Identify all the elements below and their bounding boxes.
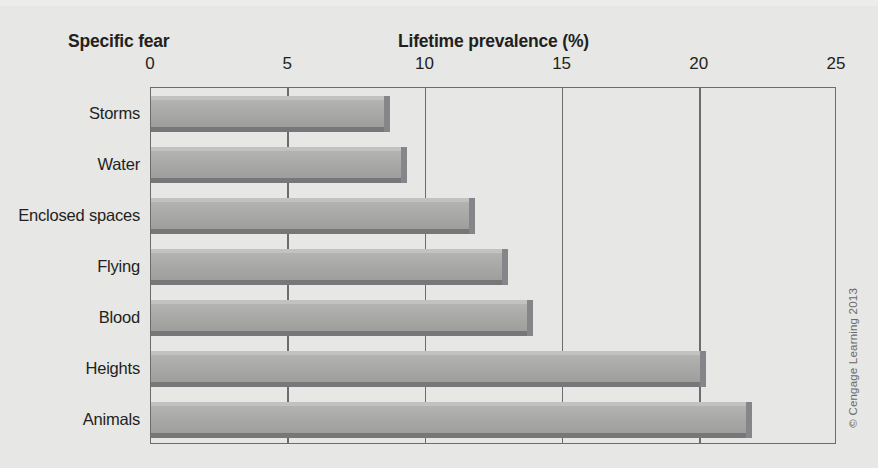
bar-top-face [151,96,384,100]
bar-end-cap [502,249,508,285]
bar-bottom-shadow [151,229,469,234]
category-labels: StormsWaterEnclosed spacesFlyingBloodHei… [0,0,140,468]
bar-storms [151,100,384,127]
x-tick-label-5: 5 [282,54,291,74]
bar-top-face [151,147,401,151]
x-tick-label-10: 10 [415,54,434,74]
bar-bottom-shadow [151,382,700,387]
bar-end-cap [401,147,407,183]
plot-area [150,87,836,444]
bar-bottom-shadow [151,331,527,336]
x-tick-label-20: 20 [689,54,708,74]
category-label-heights: Heights [0,358,140,377]
x-tick-label-15: 15 [552,54,571,74]
category-label-storms: Storms [0,103,140,122]
category-label-flying: Flying [0,256,140,275]
bar-end-cap [384,96,390,132]
category-label-blood: Blood [0,307,140,326]
copyright-credit: © Cengage Learning 2013 [847,288,859,428]
bar-end-cap [469,198,475,234]
bar-bottom-shadow [151,178,401,183]
bar-enclosed-spaces [151,202,469,229]
bar-end-cap [527,300,533,336]
bar-heights [151,355,700,382]
bar-top-face [151,351,700,355]
x-tick-label-25: 25 [827,54,846,74]
bar-top-face [151,198,469,202]
category-label-animals: Animals [0,409,140,428]
x-tick-label-0: 0 [145,54,154,74]
bar-blood [151,304,527,331]
bar-top-face [151,249,502,253]
bar-bottom-shadow [151,433,746,438]
bar-end-cap [700,351,706,387]
value-axis-title: Lifetime prevalence (%) [398,31,589,52]
bar-flying [151,253,502,280]
gridline-15 [562,88,564,443]
bar-water [151,151,401,178]
bar-bottom-shadow [151,280,502,285]
gridline-20 [699,88,701,443]
bar-top-face [151,300,527,304]
bar-animals [151,406,746,433]
bar-bottom-shadow [151,127,384,132]
bar-top-face [151,402,746,406]
category-label-water: Water [0,154,140,173]
category-label-enclosed-spaces: Enclosed spaces [0,205,140,224]
bar-end-cap [746,402,752,438]
figure-container: Specific fear Lifetime prevalence (%) 05… [0,0,878,468]
